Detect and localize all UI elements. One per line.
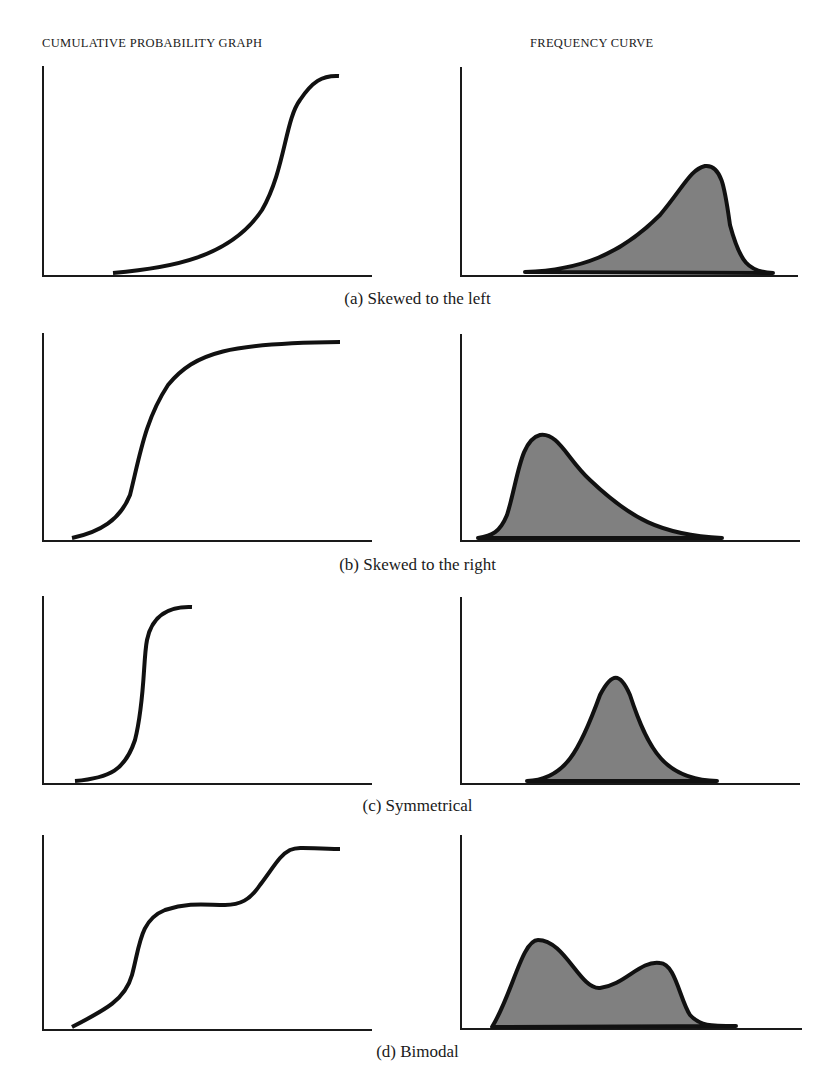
panel-a-cumulative (43, 66, 372, 276)
caption-d: (d) Bimodal (0, 1042, 835, 1062)
panel-d-frequency (461, 835, 802, 1029)
panel-a-frequency (461, 67, 798, 276)
caption-a: (a) Skewed to the left (0, 289, 835, 309)
panel-c-frequency (461, 597, 800, 784)
caption-b: (b) Skewed to the right (0, 555, 835, 575)
distribution-figure (0, 0, 835, 1089)
panel-b-frequency (461, 334, 800, 541)
panel-c-cumulative (43, 596, 372, 784)
panel-b-cumulative (43, 333, 372, 541)
panel-d-cumulative (43, 835, 372, 1030)
caption-c: (c) Symmetrical (0, 796, 835, 816)
